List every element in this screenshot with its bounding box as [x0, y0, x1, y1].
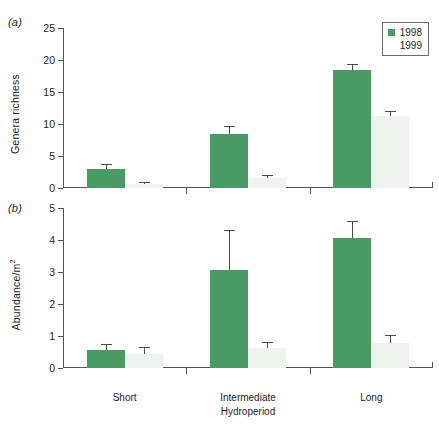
figure-root: (a) Genera richness 0510152025 1998 1999…	[0, 0, 439, 424]
x-group-tick	[186, 368, 187, 374]
y-tick-label: 0	[49, 182, 55, 194]
error-cap-1998-long	[347, 64, 358, 65]
error-cap-1998-long	[347, 221, 358, 222]
y-tick-label: 0	[49, 362, 55, 374]
x-group-tick	[310, 368, 311, 374]
panel-b-tag: (b)	[8, 202, 22, 214]
x-group-tick	[310, 188, 311, 194]
error-cap-1999-short	[139, 347, 150, 348]
panel-a-plot-area: 0510152025	[63, 28, 433, 188]
bar-1998-long	[333, 70, 371, 188]
panel-a-y-axis-label: Genera richness	[9, 34, 21, 194]
error-cap-1998-intermediate	[224, 230, 235, 231]
error-cap-1998-short	[101, 164, 112, 165]
bar-1998-long	[333, 238, 371, 368]
y-tick	[58, 188, 63, 189]
y-tick-label: 4	[49, 234, 55, 246]
panel-b: (b) Abundance/m2 012345	[0, 196, 439, 392]
panel-b-x-axis-endcap	[432, 362, 433, 368]
legend-label-1998: 1998	[400, 28, 422, 38]
error-cap-1999-intermediate	[262, 175, 273, 176]
y-tick-label: 10	[43, 118, 55, 130]
legend-item-1999: 1999	[388, 39, 422, 52]
bar-1998-intermediate	[210, 270, 248, 368]
bar-1999-long	[371, 116, 409, 188]
panel-a: (a) Genera richness 0510152025 1998 1999	[0, 10, 439, 196]
error-bar-1998-long	[352, 221, 353, 239]
y-tick-label: 5	[49, 202, 55, 214]
y-tick-label: 2	[49, 298, 55, 310]
error-cap-1999-intermediate	[262, 342, 273, 343]
error-bar-1998-intermediate	[229, 230, 230, 270]
panel-a-tag: (a)	[8, 16, 22, 28]
y-tick	[58, 156, 63, 157]
bar-1999-long	[371, 343, 409, 368]
y-tick	[58, 92, 63, 93]
panel-a-x-axis-endcap	[432, 182, 433, 188]
y-tick	[58, 124, 63, 125]
bar-1998-intermediate	[210, 134, 248, 188]
panel-b-plot-area: 012345	[63, 208, 433, 368]
bar-1999-short	[125, 184, 163, 188]
y-tick	[58, 304, 63, 305]
legend-swatch-1999-icon	[388, 42, 395, 49]
error-cap-1999-short	[139, 182, 150, 183]
y-tick	[58, 240, 63, 241]
bar-1999-intermediate	[248, 178, 286, 188]
error-bar-1999-long	[390, 335, 391, 343]
y-tick-label: 15	[43, 86, 55, 98]
y-tick-label: 1	[49, 330, 55, 342]
y-tick	[58, 60, 63, 61]
bar-1999-intermediate	[248, 348, 286, 368]
y-tick-label: 20	[43, 54, 55, 66]
error-bar-1998-intermediate	[229, 126, 230, 134]
y-tick	[58, 28, 63, 29]
panel-b-y-axis-line	[63, 208, 64, 368]
y-tick	[58, 208, 63, 209]
legend-label-1999: 1999	[400, 41, 422, 51]
x-category-label-long: Long	[360, 392, 382, 403]
x-axis-title: Hydroperiod	[221, 406, 275, 417]
error-cap-1999-long	[385, 111, 396, 112]
panel-b-y-axis-label: Abundance/m2	[8, 215, 22, 375]
y-tick	[58, 336, 63, 337]
error-cap-1998-intermediate	[224, 126, 235, 127]
legend: 1998 1999	[382, 22, 429, 56]
legend-swatch-1998-icon	[388, 29, 395, 36]
y-tick	[58, 368, 63, 369]
panel-a-y-axis-line	[63, 28, 64, 188]
x-group-tick	[186, 188, 187, 194]
y-tick-label: 25	[43, 22, 55, 34]
y-tick-label: 3	[49, 266, 55, 278]
error-cap-1998-short	[101, 344, 112, 345]
y-tick	[58, 272, 63, 273]
legend-item-1998: 1998	[388, 26, 422, 39]
x-category-label-intermediate: Intermediate	[220, 392, 276, 403]
error-cap-1999-long	[385, 335, 396, 336]
bar-1998-short	[87, 169, 125, 188]
x-category-label-short: Short	[113, 392, 137, 403]
bar-1998-short	[87, 350, 125, 368]
y-tick-label: 5	[49, 150, 55, 162]
bar-1999-short	[125, 354, 163, 368]
